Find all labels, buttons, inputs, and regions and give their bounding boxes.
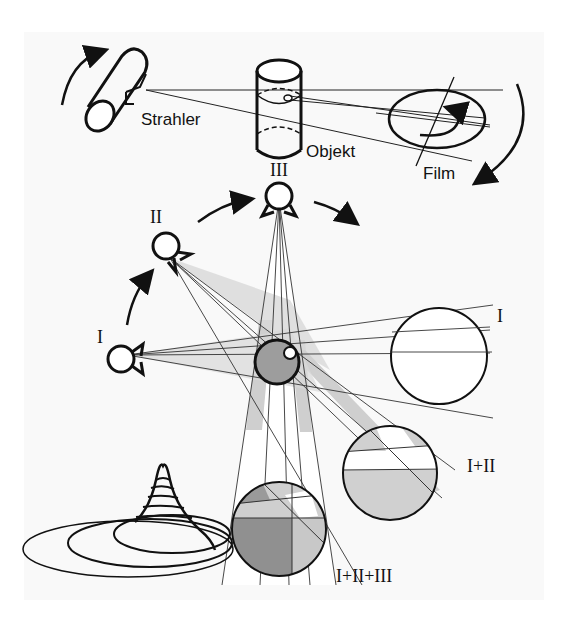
projection-1-disc [390,308,492,404]
label-objekt: Objekt [306,142,355,161]
xray-source-icon [80,49,147,137]
label-projection-3: I+II+III [336,566,392,586]
label-position-1: I [97,327,103,347]
label-position-3: III [270,160,288,180]
xray-tube-position-1-icon [108,344,143,374]
density-peak-icon [23,465,233,577]
object-cylinder-icon [257,60,301,158]
label-position-2: II [150,207,162,227]
label-strahler: Strahler [141,110,201,129]
rotation-arrow-right-icon [480,84,523,180]
label-projection-2: I+II [467,456,495,476]
label-film: Film [423,164,455,183]
tomography-diagram: Strahler Objekt Film III II I [0,0,566,622]
object-cross-section [255,340,299,384]
label-projection-1: I [497,306,503,326]
